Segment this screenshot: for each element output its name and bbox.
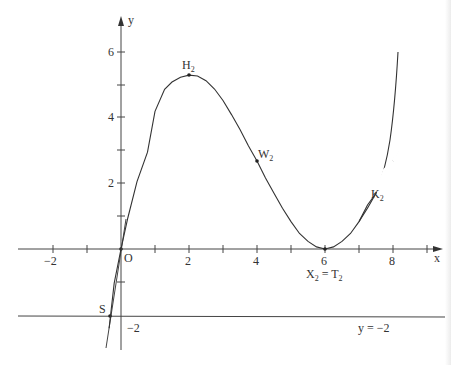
page-edge-shadow [445, 0, 451, 365]
curve-K2 [109, 52, 398, 328]
x-tick-label: 4 [253, 254, 259, 268]
x-tick-label: 6 [321, 254, 327, 268]
y-tick-label: 4 [108, 110, 114, 124]
x-tick-label: 8 [389, 254, 395, 268]
function-graph: −2 2 4 6 8 x 6 4 2 −2 y O y = −2 S [0, 0, 451, 365]
x-tick-label: −2 [44, 254, 57, 268]
y-axis-label: y [128, 13, 134, 27]
point-S-label: S [99, 302, 106, 316]
point-X2-T2-label: X2 = T2 [306, 267, 343, 283]
y-axis-arrow-icon [118, 16, 124, 26]
y-tick-label: 2 [108, 176, 114, 190]
y-tick-label: −2 [127, 321, 140, 335]
x-axis-label: x [434, 251, 440, 265]
point-H2-label: H2 [182, 58, 195, 74]
curve-K2-label: K2 [371, 187, 384, 203]
point-X2-T2 [323, 247, 327, 251]
y-tick-label: 6 [108, 45, 114, 59]
point-W2-label: W2 [258, 147, 273, 163]
x-tick-label: 2 [185, 254, 191, 268]
curve-K2-right-branch [376, 52, 398, 193]
origin-label: O [124, 251, 133, 265]
line-y-minus-2-label: y = −2 [358, 321, 390, 335]
line-y-minus-2 [18, 316, 446, 317]
x-axis: −2 2 4 6 8 x [18, 245, 443, 268]
